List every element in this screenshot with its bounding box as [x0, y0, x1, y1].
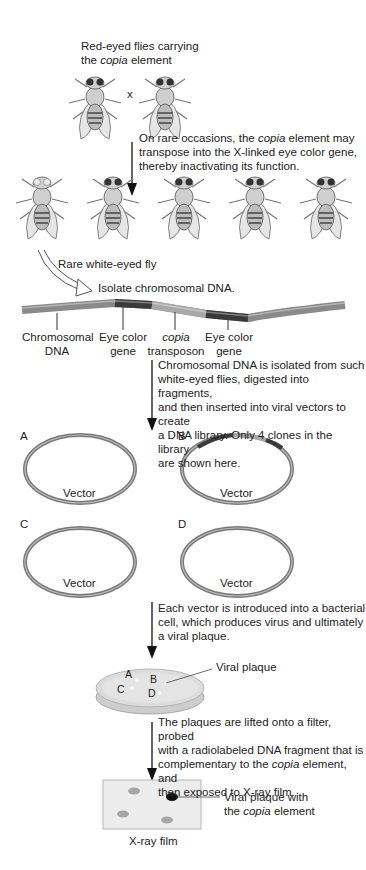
- vector-letter-a: A: [20, 429, 28, 443]
- vector-label-b: Vector: [220, 486, 253, 500]
- vector-label-c: Vector: [63, 576, 96, 590]
- isolate-dna-label: Isolate chromosomal DNA.: [98, 281, 235, 295]
- plate-letter-c: C: [117, 682, 125, 696]
- vector-letter-d: D: [178, 517, 186, 531]
- dna-label-chromosomal: ChromosomalDNA: [22, 330, 92, 358]
- dna-label-eye-gene-1: Eye colorgene: [93, 330, 153, 358]
- fly-red-eyed-2: [139, 77, 191, 139]
- vector-letter-b: B: [178, 429, 186, 443]
- step4-caption: Each vector is introduced into a bacteri…: [158, 601, 365, 643]
- step3-caption: Chromosomal DNA is isolated from such wh…: [158, 358, 366, 470]
- step1-caption: Red-eyed flies carrying the copia elemen…: [81, 39, 199, 67]
- cross-symbol: x: [127, 87, 133, 101]
- fly-red-eyed-1: [69, 77, 121, 139]
- plate-letter-b: B: [150, 672, 157, 686]
- dna-label-eye-gene-2: Eye colorgene: [199, 330, 259, 358]
- plate-letter-a: A: [125, 667, 132, 681]
- plate-letter-d: D: [148, 686, 156, 700]
- viral-plaque-callout: Viral plaque: [216, 660, 277, 674]
- white-eyed-fly-label: Rare white-eyed fly: [58, 257, 156, 271]
- dna-label-copia: copiatransposon: [146, 330, 206, 358]
- step2-caption: On rare occasions, the copia element may…: [139, 131, 357, 173]
- step5-caption: The plaques are lifted onto a filter, pr…: [158, 715, 366, 799]
- copia-plaque-callout: Viral plaque with the copia element: [224, 790, 315, 818]
- xray-film-label: X-ray film: [129, 834, 178, 848]
- vector-label-a: Vector: [63, 486, 96, 500]
- vector-label-d: Vector: [220, 576, 253, 590]
- vector-letter-c: C: [20, 517, 28, 531]
